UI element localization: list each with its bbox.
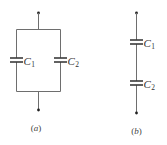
- caption-a: (a): [31, 123, 42, 133]
- circuit-a-parallel: C1 C2 (a): [10, 12, 79, 133]
- capacitor-c2-icon: [54, 58, 67, 62]
- capacitor-c1-label: C1: [144, 37, 156, 51]
- capacitor-diagrams: C1 C2 (a) C1 C2 (b): [0, 0, 167, 145]
- capacitor-c2-label: C2: [144, 78, 156, 92]
- terminal-bottom-node: [37, 109, 40, 112]
- caption-b: (b): [131, 126, 142, 136]
- circuit-b-series: C1 C2 (b): [130, 12, 155, 136]
- capacitor-c2-icon: [130, 81, 143, 85]
- capacitor-c2-label: C2: [68, 55, 80, 69]
- capacitor-c1-icon: [130, 40, 143, 44]
- terminal-bottom-node: [135, 112, 138, 115]
- capacitor-c1-icon: [10, 58, 23, 62]
- capacitor-c1-label: C1: [24, 55, 36, 69]
